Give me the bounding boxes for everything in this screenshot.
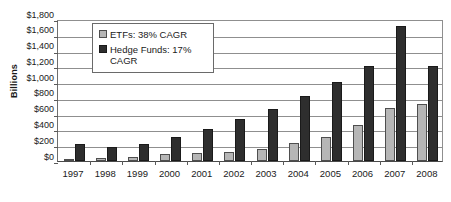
legend-label: ETFs: 38% CAGR	[110, 29, 187, 40]
x-axis-tick-label: 2003	[256, 168, 277, 180]
y-axis-tick	[54, 163, 58, 164]
bar-etf-1998	[96, 158, 106, 161]
x-axis-tick-label: 2001	[191, 168, 212, 180]
bar-hedge-funds-2005	[332, 82, 342, 161]
y-axis-tick-label: $1,600	[6, 26, 54, 35]
y-axis-tick-label: $0	[6, 152, 54, 161]
bar-etf-2003	[257, 149, 267, 161]
bar-chart: Billions $0$200$400$600$800$1,000$1,200$…	[0, 0, 451, 202]
legend-label: Hedge Funds: 17% CAGR	[110, 44, 207, 66]
x-axis-tick	[219, 161, 220, 165]
bar-etf-1997	[64, 159, 74, 161]
x-axis-tick-label: 2007	[384, 168, 405, 180]
x-axis-tick-label: 1997	[63, 168, 84, 180]
legend-entry: ETFs: 38% CAGR	[99, 29, 207, 40]
bar-hedge-funds-2004	[300, 96, 310, 161]
y-axis-tick-label: $1,800	[6, 10, 54, 19]
bar-hedge-funds-1998	[107, 147, 117, 161]
y-axis-tick-label: $1,400	[6, 42, 54, 51]
x-axis-tick-label: 1998	[95, 168, 116, 180]
x-axis-tick-label: 1999	[127, 168, 148, 180]
bar-hedge-funds-2002	[235, 119, 245, 161]
x-axis-tick-label: 2008	[416, 168, 437, 180]
x-axis-tick-labels: 1997199819992000200120022003200420052006…	[57, 168, 443, 184]
bar-hedge-funds-1997	[75, 144, 85, 161]
x-axis-tick	[122, 161, 123, 165]
bar-group	[219, 21, 251, 161]
bar-hedge-funds-2000	[171, 137, 181, 161]
bar-etf-2008	[417, 104, 427, 161]
bar-etf-2006	[353, 125, 363, 161]
x-axis-tick	[283, 161, 284, 165]
x-axis-tick	[348, 161, 349, 165]
bar-group	[315, 21, 347, 161]
bar-group	[251, 21, 283, 161]
x-axis-tick	[315, 161, 316, 165]
x-axis-tick	[251, 161, 252, 165]
legend-entry: Hedge Funds: 17% CAGR	[99, 44, 207, 66]
bar-etf-2007	[385, 108, 395, 161]
bar-etf-2002	[224, 152, 234, 161]
legend-swatch-icon	[99, 30, 107, 38]
x-axis-tick	[155, 161, 156, 165]
x-axis-tick	[187, 161, 188, 165]
bar-etf-2001	[192, 153, 202, 161]
x-axis-tick-label: 2005	[320, 168, 341, 180]
y-axis-tick-label: $200	[6, 136, 54, 145]
bar-etf-2005	[321, 137, 331, 161]
bar-etf-2004	[289, 143, 299, 161]
y-axis-tick-label: $1,200	[6, 57, 54, 66]
bar-hedge-funds-2008	[428, 66, 438, 161]
bar-hedge-funds-2007	[396, 26, 406, 161]
bar-etf-2000	[160, 154, 170, 161]
bar-hedge-funds-2001	[203, 129, 213, 161]
bar-hedge-funds-1999	[139, 144, 149, 161]
x-axis-tick	[90, 161, 91, 165]
bar-hedge-funds-2003	[268, 109, 278, 161]
y-axis-tick-label: $1,000	[6, 73, 54, 82]
bar-group	[283, 21, 315, 161]
bar-hedge-funds-2006	[364, 66, 374, 161]
bar-etf-1999	[128, 157, 138, 161]
x-axis-tick-label: 2002	[223, 168, 244, 180]
x-axis-tick	[380, 161, 381, 165]
bar-group	[348, 21, 380, 161]
x-axis-tick-label: 2006	[352, 168, 373, 180]
bar-group	[380, 21, 412, 161]
bar-group	[58, 21, 90, 161]
y-axis-tick-label: $400	[6, 120, 54, 129]
y-axis-tick-label: $800	[6, 89, 54, 98]
y-axis-tick-labels: $0$200$400$600$800$1,000$1,200$1,400$1,6…	[6, 14, 54, 162]
legend-swatch-icon	[99, 45, 107, 53]
x-axis-tick	[412, 161, 413, 165]
x-axis-tick-label: 2004	[288, 168, 309, 180]
bar-group	[412, 21, 444, 161]
chart-legend: ETFs: 38% CAGRHedge Funds: 17% CAGR	[92, 23, 214, 73]
y-axis-tick-label: $600	[6, 105, 54, 114]
x-axis-tick-label: 2000	[159, 168, 180, 180]
